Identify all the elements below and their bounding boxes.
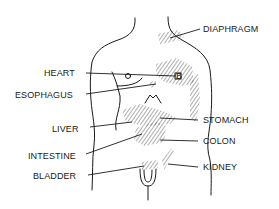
diaphragm-region <box>158 30 184 44</box>
liver-region <box>122 104 176 126</box>
label-intestine: INTESTINE <box>28 151 76 161</box>
label-bladder: BLADDER <box>33 171 77 181</box>
kidney-region <box>162 148 174 170</box>
stomach-marker: B <box>176 71 182 81</box>
label-heart: HEART <box>44 68 75 78</box>
label-esophagus: ESOPHAGUS <box>15 90 73 100</box>
organ-hatching <box>122 30 200 170</box>
label-diaphragm: DIAPHRAGM <box>203 24 258 34</box>
label-kidney: KIDNEY <box>203 162 237 172</box>
label-liver: LIVER <box>52 124 79 134</box>
stomach-region-side <box>190 74 200 122</box>
label-colon: COLON <box>203 136 236 146</box>
bladder-region <box>142 160 158 170</box>
colon-region <box>134 122 166 146</box>
leader-lines <box>86 29 200 175</box>
label-stomach: STOMACH <box>203 115 249 125</box>
torso-diagram: B HEART ESOPHAGUS LIVER INTESTINE BLADDE… <box>0 0 279 209</box>
heart-region <box>156 58 194 86</box>
